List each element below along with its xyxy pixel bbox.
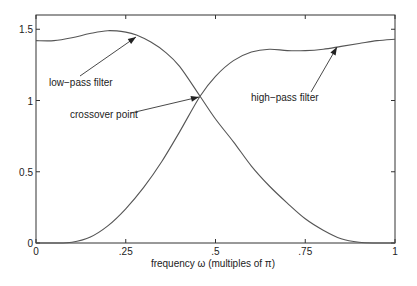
y-tick-label: 1.5: [19, 24, 33, 35]
plot-frame: [36, 15, 395, 243]
annotation-label: high−pass filter: [251, 92, 319, 103]
x-tick-label: 0: [33, 246, 39, 257]
high-pass-filter-curve: [36, 39, 395, 243]
x-tick-label: .75: [298, 246, 312, 257]
x-axis-label: frequency ω (multiples of π): [151, 258, 275, 269]
plot-axes: 0.25.5.75100.511.5: [19, 15, 398, 257]
y-tick-label: 0: [27, 238, 33, 249]
annotation-label: crossover point: [70, 109, 138, 120]
plot-curves: [36, 31, 395, 243]
y-tick-label: 0.5: [19, 167, 33, 178]
annotation-arrow: [131, 97, 199, 113]
y-tick-label: 1: [27, 96, 33, 107]
x-tick-label: 1: [392, 246, 398, 257]
x-tick-label: .5: [211, 246, 220, 257]
low-pass-filter-curve: [36, 31, 395, 243]
annotation-arrow: [80, 37, 136, 76]
x-tick-label: .25: [119, 246, 133, 257]
filter-response-chart: 0.25.5.75100.511.5 low−pass filtercrosso…: [0, 0, 417, 286]
annotation-label: low−pass filter: [49, 77, 113, 88]
arrowhead-icon: [128, 37, 136, 44]
